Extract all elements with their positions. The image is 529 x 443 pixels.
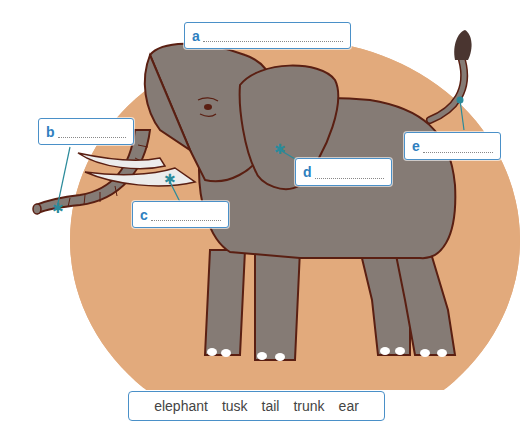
label-letter: a	[192, 29, 200, 43]
label-box-a[interactable]: a	[184, 22, 351, 49]
label-letter: c	[140, 208, 148, 222]
elephant-illustration: ✱ ✱ ✱	[0, 0, 529, 443]
eye	[204, 104, 212, 110]
answer-line[interactable]	[315, 170, 384, 179]
word-bank-item: tusk	[222, 398, 248, 414]
answer-line[interactable]	[151, 212, 221, 221]
label-letter: d	[303, 165, 312, 179]
word-bank-item: ear	[339, 398, 359, 414]
label-letter: e	[412, 139, 420, 153]
answer-line[interactable]	[423, 144, 493, 153]
label-box-e[interactable]: e	[404, 132, 501, 160]
label-letter: b	[46, 125, 55, 139]
pointer-mark-e	[457, 97, 464, 104]
word-bank-item: elephant	[154, 398, 208, 414]
pointer-mark-b: ✱	[52, 200, 64, 216]
label-box-b[interactable]: b	[38, 118, 134, 145]
pointer-mark-c: ✱	[164, 171, 176, 187]
label-box-c[interactable]: c	[132, 201, 229, 228]
word-bank-item: tail	[262, 398, 280, 414]
answer-line[interactable]	[58, 129, 126, 138]
answer-line[interactable]	[203, 33, 343, 42]
pointer-mark-d: ✱	[274, 141, 286, 157]
label-box-d[interactable]: d	[295, 158, 392, 186]
word-bank-item: trunk	[293, 398, 324, 414]
word-bank: elephant tusk tail trunk ear	[128, 391, 385, 421]
